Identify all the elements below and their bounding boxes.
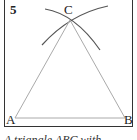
figure-caption: A triangle ABC with ...	[4, 133, 113, 140]
side-bc	[70, 20, 125, 118]
point-label-c: C	[64, 3, 73, 16]
triangle-construction	[0, 0, 137, 140]
arc-from-b	[42, 6, 108, 45]
point-label-a: A	[6, 113, 15, 126]
point-label-b: B	[124, 113, 133, 126]
side-ac	[15, 20, 70, 118]
step-number: 5	[10, 3, 17, 16]
